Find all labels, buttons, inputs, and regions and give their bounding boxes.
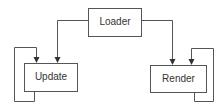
- node-loader[interactable]: Loader: [89, 9, 142, 37]
- node-update-label: Update: [35, 71, 68, 82]
- node-loader-label: Loader: [99, 16, 131, 27]
- edge-loader-to-update: [55, 21, 89, 64]
- edge-loader-to-render: [142, 21, 176, 66]
- arrow-down-icon: [34, 57, 40, 63]
- arrow-down-icon: [55, 57, 61, 63]
- node-update[interactable]: Update: [25, 64, 78, 92]
- node-render-label: Render: [162, 73, 195, 84]
- arrow-down-icon: [170, 59, 176, 65]
- diagram-canvas: Loader Update Render: [0, 0, 223, 109]
- node-render[interactable]: Render: [151, 66, 207, 93]
- arrow-down-icon: [189, 59, 195, 65]
